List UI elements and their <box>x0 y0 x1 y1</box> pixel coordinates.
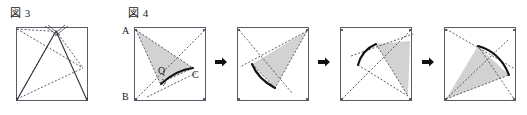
figure-4-panel-2 <box>238 28 309 101</box>
panel-4-square <box>445 28 516 101</box>
figure-3-square <box>17 28 88 101</box>
panel-4-dotted-lines <box>446 29 515 99</box>
arrow-2-icon <box>318 58 330 67</box>
panel-3-shaded-region <box>376 41 410 96</box>
panel-2-shaded-region <box>252 31 307 88</box>
panel-2-vertex-dots <box>238 29 308 100</box>
panel-3-arc <box>358 44 376 65</box>
arrow-1-icon <box>215 58 227 67</box>
vertex-label-b: B <box>122 92 129 102</box>
panel-2-square <box>238 28 309 101</box>
panel-1-vertex-dots <box>135 29 205 100</box>
panel-4-arc <box>478 46 509 75</box>
panel-1-dotted-lines <box>136 30 204 99</box>
panel-3-square <box>341 28 412 101</box>
figure-3-solid-lines <box>18 31 87 99</box>
panel-1-arc <box>161 68 193 84</box>
figure-4-arrows <box>215 58 434 67</box>
vertex-label-q: Q <box>158 66 165 76</box>
panel-3-dotted-lines <box>342 29 413 99</box>
caption-figure-3: 図 3 <box>10 8 31 19</box>
panel-4-vertex-dots <box>445 29 515 100</box>
geometry-canvas <box>0 0 527 115</box>
figure-root: 図 3 図 4 A B <box>0 0 527 115</box>
caption-figure-4: 図 4 <box>128 8 149 19</box>
panel-3-vertex-dots <box>341 29 411 100</box>
figure-3-corner-dots <box>16 98 88 100</box>
figure-4-panel-4 <box>445 28 516 101</box>
figure-3-group <box>16 25 88 101</box>
panel-2-dotted-lines <box>239 30 307 93</box>
arrow-3-icon <box>422 58 434 67</box>
panel-2-arc <box>252 64 275 88</box>
panel-1-right-angle-mark <box>162 79 166 86</box>
panel-4-shaded-region <box>446 46 509 99</box>
panel-1-square <box>135 28 206 101</box>
vertex-label-a: A <box>122 26 129 36</box>
figure-3-angle-arc-marks <box>45 25 68 36</box>
figure-4-panel-3 <box>341 28 414 101</box>
figure-3-dotted-lines <box>17 29 83 99</box>
vertex-label-c: C <box>192 70 199 80</box>
figure-4-panel-1 <box>135 28 206 101</box>
